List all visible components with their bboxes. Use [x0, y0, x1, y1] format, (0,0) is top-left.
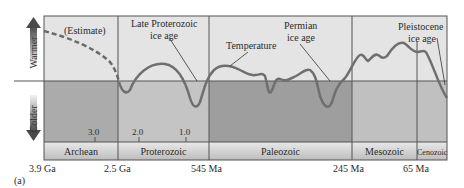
- permian-label-2: ice age: [287, 32, 315, 43]
- time-label-545-ma: 545 Ma: [191, 163, 222, 174]
- late-proterozoic-label-2: ice age: [150, 30, 178, 41]
- tick-label-3-0: 3.0: [88, 127, 99, 138]
- permian-label-1: Permian: [284, 20, 317, 31]
- late-proterozoic-label-1: Late Proterozoic: [131, 18, 197, 29]
- warmer-label: Warmer: [28, 29, 39, 69]
- time-label-3-9-ga: 3.9 Ga: [29, 163, 56, 174]
- time-label-245-ma: 245 Ma: [333, 163, 364, 174]
- era-archean: Archean: [44, 146, 118, 157]
- era-mesozoic: Mesozoic: [352, 146, 417, 157]
- pleistocene-label-2: ice age: [408, 33, 436, 44]
- temperature-label: Temperature: [226, 40, 276, 51]
- time-label-2-5-ga: 2.5 Ga: [104, 163, 131, 174]
- era-cenozoic: Cenozoic: [417, 147, 447, 158]
- colder-label: Colder: [28, 93, 39, 133]
- era-paleozoic: Paleozoic: [209, 146, 352, 157]
- panel-label: (a): [14, 175, 25, 186]
- tick-label-1-0: 1.0: [179, 127, 190, 138]
- tick-label-2-0: 2.0: [132, 127, 143, 138]
- era-proterozoic: Proterozoic: [118, 146, 209, 157]
- pleistocene-label-1: Pleistocene: [398, 21, 444, 32]
- time-label-65-ma: 65 Ma: [403, 163, 429, 174]
- estimate-label: (Estimate): [64, 25, 106, 36]
